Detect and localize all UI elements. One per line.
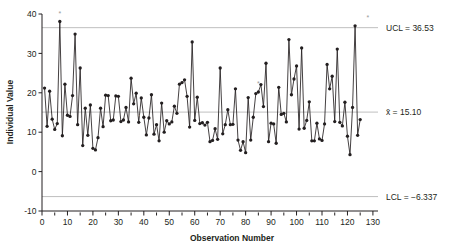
x-axis-title: Observation Number (190, 233, 275, 243)
data-point (303, 127, 306, 130)
data-point (216, 138, 219, 141)
y-tick-label: 40 (27, 9, 37, 19)
out-of-control-asterisk: * (257, 80, 260, 87)
data-point (213, 127, 216, 130)
data-point (328, 87, 331, 90)
x-tick-label: 100 (289, 217, 303, 227)
data-point (68, 115, 71, 118)
y-tick-label: 0 (32, 167, 37, 177)
data-point (201, 121, 204, 124)
data-point (99, 107, 102, 110)
data-point (175, 112, 178, 115)
data-point (295, 64, 298, 67)
out-of-control-asterisk: * (137, 113, 140, 120)
data-point (287, 38, 290, 41)
data-point (252, 116, 255, 119)
data-point (165, 119, 168, 122)
data-point (249, 138, 252, 141)
data-point (336, 47, 339, 50)
data-point (320, 139, 323, 142)
data-point (356, 134, 359, 137)
data-point (152, 133, 155, 136)
x-tick-label: 30 (114, 217, 124, 227)
data-point (262, 105, 265, 108)
data-point (241, 140, 244, 143)
data-point (275, 142, 278, 145)
y-tick-label: 10 (27, 127, 37, 137)
data-point (124, 106, 127, 109)
data-point (323, 122, 326, 125)
x-tick-label: 10 (63, 217, 73, 227)
data-point (185, 95, 188, 98)
data-point (155, 123, 158, 126)
data-point (206, 121, 209, 124)
data-point (132, 102, 135, 105)
data-point (267, 140, 270, 143)
data-point (51, 118, 54, 121)
data-point (183, 78, 186, 81)
data-point (81, 144, 84, 147)
data-point (71, 94, 74, 97)
data-point (292, 77, 295, 80)
control-chart: -10010203040 010203040506070809010011012… (0, 0, 449, 247)
data-point (300, 46, 303, 49)
data-point (89, 103, 92, 106)
data-point (145, 133, 148, 136)
data-point (84, 107, 87, 110)
data-point (150, 93, 153, 96)
data-point (203, 123, 206, 126)
data-point (137, 121, 140, 124)
data-point (122, 118, 125, 121)
data-point (211, 139, 214, 142)
data-point (56, 122, 59, 125)
data-point (272, 122, 275, 125)
data-point (346, 134, 349, 137)
data-point (117, 95, 120, 98)
data-point (147, 116, 150, 119)
data-point (224, 123, 227, 126)
data-point (196, 95, 199, 98)
out-of-control-asterisk: * (58, 10, 61, 17)
center-line-label: x̄ = 15.10 (386, 107, 421, 117)
data-point (86, 134, 89, 137)
out-of-control-asterisk: * (366, 14, 369, 21)
data-point (63, 82, 66, 85)
data-point (79, 66, 82, 69)
data-point (76, 123, 79, 126)
x-tick-label: 50 (165, 217, 175, 227)
data-point (231, 123, 234, 126)
data-point (244, 151, 247, 154)
data-point (348, 153, 351, 156)
data-point (191, 40, 194, 43)
data-point (351, 106, 354, 109)
data-point (129, 77, 132, 80)
data-point (234, 87, 237, 90)
data-point (112, 118, 115, 121)
data-point (341, 124, 344, 127)
data-point (325, 63, 328, 66)
data-point (282, 112, 285, 115)
data-point (61, 134, 64, 137)
y-tick-label: 20 (27, 88, 37, 98)
data-point (239, 149, 242, 152)
data-point (101, 125, 104, 128)
x-tick-label: 120 (340, 217, 354, 227)
data-point (264, 62, 267, 65)
data-point (308, 100, 311, 103)
data-point (45, 125, 48, 128)
data-point (313, 139, 316, 142)
x-tick-label: 70 (215, 217, 225, 227)
data-point (315, 121, 318, 124)
data-point (142, 116, 145, 119)
x-tick-label: 0 (40, 217, 45, 227)
data-point (188, 125, 191, 128)
x-tick-label: 130 (366, 217, 380, 227)
data-point (180, 81, 183, 84)
data-point (359, 118, 362, 121)
data-point (333, 120, 336, 123)
data-point (170, 120, 173, 123)
data-point (331, 75, 334, 78)
data-point (73, 32, 76, 35)
x-tick-label: 60 (190, 217, 200, 227)
data-point (221, 132, 224, 135)
